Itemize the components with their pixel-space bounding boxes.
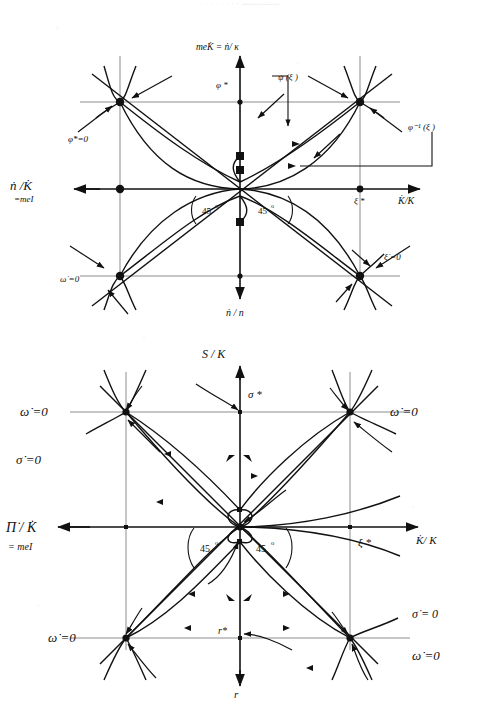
annotation-sigma-dot-zero-bottomright: σ̇ = 0 — [412, 607, 438, 621]
annotation-xi-dot-zero: ξ̇ =0 — [384, 252, 401, 262]
page-header-smudge: · · · · · · · ▫ ▬▬▬▬▬ — [0, 0, 480, 10]
annotation-omega-dot-zero-topleft: ω̇ =0 — [20, 404, 48, 419]
axis-label-vertical-top: meK̇ = ṅ/ κ — [196, 42, 239, 52]
degree-right-bottom: o — [271, 539, 274, 546]
marker-xi-star-right-2: ξ * — [358, 536, 371, 549]
phase-diagram-top: meK̇ = ṅ/ κ ṅ / n ṅ /K̇ =meI K̇/K φ * ξ … — [0, 14, 480, 324]
annotation-sigma-dot-zero-left: σ̇ =0 — [16, 452, 41, 467]
annotation-omega-dot-zero-bottomleft: ω̇ =0 — [48, 630, 76, 645]
axis-label-horizontal-left-2: Π̇ / K̇ — [5, 520, 37, 535]
marker-r-star: r* — [218, 625, 227, 636]
axis-label-horizontal-right: K̇/K — [397, 195, 415, 206]
annotation-phi-dot-star-zero: φ̇*=0 — [68, 134, 89, 144]
angle-label-left-top: 45 — [202, 206, 212, 216]
degree-left-top: o — [215, 203, 218, 209]
axis-label-horizontal-left-sub-2: = meI — [8, 541, 33, 552]
axis-label-horizontal-right-2: K̇/ K — [415, 534, 437, 546]
annotation-phi-inverse-xi: φ⁻¹ (ξ ) — [408, 122, 435, 132]
flow-markers-top — [288, 141, 300, 169]
annotation-omega-dot-zero-bottomright: ω̇ =0 — [412, 648, 440, 663]
trajectory-curves-bottom — [86, 370, 400, 680]
phase-diagram-bottom: S / K r Π̇ / K̇ = meI K̇/ K σ * ξ * r* 4… — [0, 330, 480, 704]
axis-label-vertical-bottom: ṅ / n — [226, 307, 244, 318]
diagonal-lines-top — [92, 74, 392, 306]
axis-label-vertical-bottom-2: r — [234, 688, 239, 700]
axis-label-horizontal-left-sub: =meI — [14, 194, 35, 204]
angle-label-left-bottom: 45 — [200, 543, 210, 554]
angle-label-right-bottom: 45 — [256, 543, 266, 554]
marker-xi-star-right: ξ * — [354, 196, 365, 206]
angle-bracket-right-bottom — [286, 528, 292, 568]
angle-label-right-top: 45 — [258, 206, 268, 216]
axis-label-horizontal-left: ṅ /K̇ — [10, 178, 33, 193]
figure-page: · · · · · · · ▫ ▬▬▬▬▬ — [0, 0, 480, 704]
angle-bracket-left-bottom — [188, 528, 194, 568]
axis-label-vertical-top-2: S / K — [202, 347, 226, 361]
degree-right-top: o — [271, 203, 274, 209]
marker-phi-star: φ * — [216, 80, 228, 90]
marker-sigma-star: σ * — [248, 388, 262, 400]
annotation-omega-dot-zero-topright: ω̇ =0 — [390, 404, 418, 419]
annotation-psi-xi: ψ (ξ ) — [278, 72, 298, 82]
annotation-omega-dot-zero: ω̇ =0 — [60, 274, 80, 284]
angle-bracket-right-top — [288, 196, 293, 224]
degree-left-bottom: o — [215, 539, 218, 546]
